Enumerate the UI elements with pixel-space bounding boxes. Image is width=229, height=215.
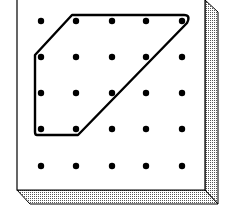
peg bbox=[143, 18, 149, 24]
board-right-side bbox=[205, 0, 218, 204]
peg bbox=[143, 126, 149, 132]
peg bbox=[143, 163, 149, 169]
peg bbox=[73, 90, 79, 96]
peg bbox=[179, 18, 185, 24]
peg bbox=[109, 90, 115, 96]
peg bbox=[179, 163, 185, 169]
peg bbox=[73, 54, 79, 60]
peg bbox=[179, 90, 185, 96]
peg bbox=[179, 54, 185, 60]
peg bbox=[143, 54, 149, 60]
peg bbox=[109, 126, 115, 132]
peg bbox=[109, 54, 115, 60]
peg bbox=[73, 126, 79, 132]
peg bbox=[73, 18, 79, 24]
peg bbox=[109, 163, 115, 169]
peg bbox=[38, 54, 44, 60]
peg bbox=[38, 90, 44, 96]
peg bbox=[38, 126, 44, 132]
geoboard bbox=[0, 0, 229, 215]
board-bottom-side bbox=[17, 190, 218, 204]
peg bbox=[38, 163, 44, 169]
peg bbox=[179, 126, 185, 132]
peg bbox=[38, 18, 44, 24]
geoboard-diagram bbox=[0, 0, 229, 215]
peg bbox=[143, 90, 149, 96]
peg bbox=[109, 18, 115, 24]
peg bbox=[73, 163, 79, 169]
